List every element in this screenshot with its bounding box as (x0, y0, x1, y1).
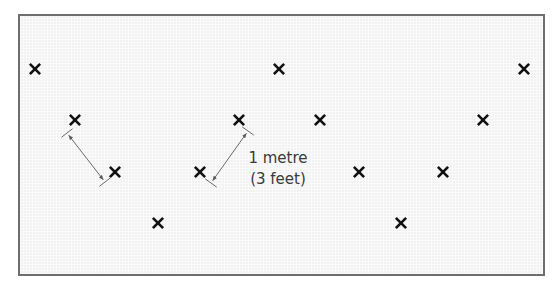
cross-marker-icon (316, 116, 324, 124)
spacing-label-imperial: (3 feet) (248, 169, 308, 190)
dimension-lines (61, 127, 253, 187)
dimension-tick (242, 127, 253, 135)
dimension-tick (205, 179, 216, 187)
cross-marker-icon (520, 65, 528, 73)
cross-marker-icon (275, 65, 283, 73)
spacing-label: 1 metre (3 feet) (248, 148, 308, 190)
cross-marker-icon (397, 219, 405, 227)
cross-marker-icon (196, 168, 204, 176)
cross-marker-icon (355, 168, 363, 176)
dimension-tick (61, 129, 72, 138)
spacing-label-metric: 1 metre (248, 148, 308, 169)
cross-marker-icon (31, 65, 39, 73)
cross-marker-icon (154, 219, 162, 227)
cross-marker-icon (71, 116, 79, 124)
cross-marker-icon (111, 168, 119, 176)
diagram-canvas (0, 0, 556, 291)
dimension-tick (99, 178, 110, 187)
cross-marker-icon (235, 116, 243, 124)
dimension-line (61, 129, 110, 187)
dimension-line (205, 127, 253, 187)
plant-markers (31, 65, 528, 227)
cross-marker-icon (479, 116, 487, 124)
cross-marker-icon (439, 168, 447, 176)
